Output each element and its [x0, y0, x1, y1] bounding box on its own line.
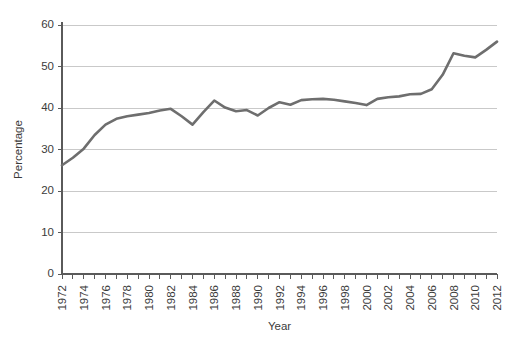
y-tick-label: 60: [41, 18, 54, 30]
x-tick-label: 1992: [274, 285, 286, 311]
x-tick-label: 1988: [230, 285, 242, 311]
x-tick-label: 1980: [143, 285, 155, 311]
gridlines-group: [62, 25, 497, 233]
chart-canvas: 0102030405060 19721974197619781980198219…: [0, 0, 514, 343]
y-tick-label: 20: [41, 184, 54, 196]
x-tick-label: 2008: [448, 285, 460, 311]
x-tick-label: 2006: [426, 285, 438, 311]
x-tick-label: 1974: [78, 284, 90, 310]
x-tick-label: 1990: [252, 285, 264, 311]
x-tick-label: 2000: [361, 285, 373, 311]
x-tick-label: 1972: [56, 285, 68, 311]
x-tick-label: 1998: [339, 285, 351, 311]
y-tick-label: 0: [48, 267, 54, 279]
y-tick-label: 30: [41, 143, 54, 155]
x-tick-label: 1978: [121, 285, 133, 311]
x-tick-label: 1976: [100, 285, 112, 311]
x-tick-label: 2010: [469, 285, 481, 311]
y-tick-label: 40: [41, 101, 54, 113]
y-tick-label: 50: [41, 60, 54, 72]
x-tick-label: 1996: [317, 285, 329, 311]
x-tick-label: 2012: [491, 285, 503, 311]
x-tick-labels: 1972197419761978198019821984198619881990…: [56, 284, 503, 310]
data-series-line: [62, 42, 497, 166]
y-tick-label: 10: [41, 226, 54, 238]
line-chart: 0102030405060 19721974197619781980198219…: [0, 0, 514, 343]
x-tick-marks: [62, 274, 497, 279]
x-tick-label: 1984: [187, 284, 199, 310]
x-tick-label: 2002: [382, 285, 394, 311]
y-tick-labels: 0102030405060: [41, 18, 54, 279]
x-tick-label: 1982: [165, 285, 177, 311]
x-tick-label: 1994: [295, 284, 307, 310]
x-tick-label: 1986: [208, 285, 220, 311]
y-axis-title: Percentage: [12, 120, 24, 179]
x-axis-title: Year: [268, 320, 291, 332]
x-tick-label: 2004: [404, 284, 416, 310]
